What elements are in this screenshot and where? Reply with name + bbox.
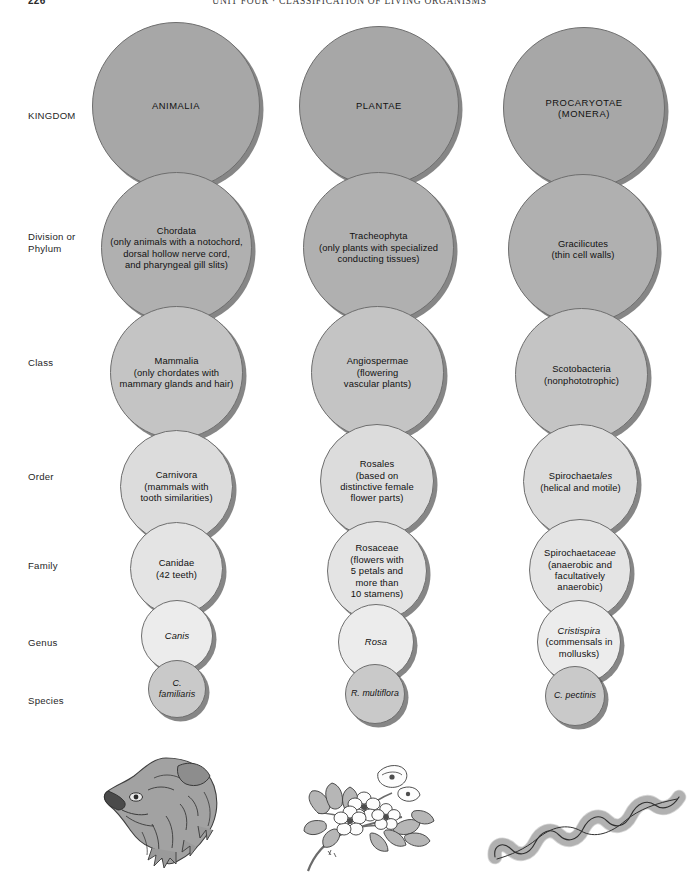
- node-name: Canis: [165, 630, 189, 641]
- node-name-split: Spirochaetaceae: [544, 547, 616, 558]
- node-description: (thin cell walls): [551, 249, 614, 260]
- taxonomy-diagram-page: 226 UNIT FOUR · CLASSIFICATION OF LIVING…: [0, 0, 699, 881]
- node-name: C. familiaris: [153, 678, 201, 701]
- node-animal-division[interactable]: Chordata (only animals with a notochord,…: [101, 172, 252, 323]
- node-name: Canidae: [156, 557, 197, 568]
- node-plant-class[interactable]: Angiospermae (flowering vascular plants): [311, 306, 444, 439]
- node-monera-division[interactable]: Gracilicutes (thin cell walls): [508, 174, 658, 324]
- node-animal-class[interactable]: Mammalia (only chordates with mammary gl…: [110, 306, 243, 439]
- rank-label-species: Species: [28, 695, 64, 707]
- node-description: (helical and motile): [540, 482, 621, 493]
- node-name: Rosaceae: [350, 542, 403, 553]
- node-plant-kingdom[interactable]: PLANTAE: [299, 26, 459, 186]
- node-name-split: Spirochaetales: [540, 470, 621, 481]
- node-description: (only plants with specialized conducting…: [319, 242, 438, 265]
- node-description: (based on distinctive female flower part…: [340, 470, 414, 504]
- node-animal-species[interactable]: C. familiaris: [148, 660, 206, 718]
- rank-label-kingdom: KINGDOM: [28, 110, 76, 122]
- node-description: (commensals in mollusks): [545, 636, 612, 659]
- node-description: (anaerobic and facultatively anaerobic): [544, 559, 616, 593]
- node-description: (mammals with tooth similarities): [140, 481, 212, 504]
- node-name: Tracheophyta: [319, 230, 438, 241]
- node-name-italic: ales: [595, 470, 613, 481]
- node-description: (nonphototrophic): [544, 375, 619, 386]
- node-name: Cristispira: [545, 625, 612, 636]
- node-description: (flowers with 5 petals and more than 10 …: [350, 554, 403, 600]
- node-name: C. pectinis: [554, 690, 596, 701]
- node-animal-kingdom[interactable]: ANIMALIA: [92, 22, 260, 190]
- node-description: (only chordates with mammary glands and …: [120, 367, 234, 390]
- node-name: Rosales: [340, 458, 414, 469]
- node-name: PROCARYOTAE (MONERA): [545, 97, 622, 120]
- rank-label-class: Class: [28, 357, 53, 369]
- rose-branch-illustration: [300, 755, 440, 875]
- node-plant-species[interactable]: R. multiflora: [345, 664, 405, 724]
- node-name: Angiospermae: [344, 355, 411, 366]
- rank-label-order: Order: [28, 471, 54, 483]
- running-head: 226 UNIT FOUR · CLASSIFICATION OF LIVING…: [0, 0, 699, 10]
- rank-label-genus: Genus: [28, 637, 58, 649]
- node-description: (flowering vascular plants): [344, 367, 411, 390]
- rank-label-family: Family: [28, 560, 58, 572]
- node-name-italic: aceae: [590, 547, 616, 558]
- node-monera-species[interactable]: C. pectinis: [545, 666, 605, 726]
- node-name-roman: Spirochaet: [549, 470, 595, 481]
- node-name: PLANTAE: [356, 100, 402, 111]
- node-name: Rosa: [365, 636, 387, 647]
- node-monera-kingdom[interactable]: PROCARYOTAE (MONERA): [503, 27, 665, 189]
- node-name: Scotobacteria: [544, 363, 619, 374]
- node-name: ANIMALIA: [152, 100, 200, 111]
- dog-head-illustration: [96, 752, 226, 870]
- node-plant-division[interactable]: Tracheophyta (only plants with specializ…: [303, 172, 454, 323]
- node-name: Chordata: [110, 225, 242, 236]
- node-name-roman: Spirochaet: [544, 547, 590, 558]
- node-name: Carnivora: [140, 469, 212, 480]
- rank-label-division: Division or Phylum: [28, 231, 76, 254]
- running-title: UNIT FOUR · CLASSIFICATION OF LIVING ORG…: [0, 0, 699, 6]
- spirochete-illustration: [487, 775, 687, 871]
- node-name: Mammalia: [120, 355, 234, 366]
- node-description: (42 teeth): [156, 569, 197, 580]
- node-description: (only animals with a notochord, dorsal h…: [110, 236, 242, 270]
- node-name: Gracilicutes: [551, 238, 614, 249]
- node-monera-class[interactable]: Scotobacteria (nonphototrophic): [515, 308, 648, 441]
- node-name: R. multiflora: [351, 688, 399, 699]
